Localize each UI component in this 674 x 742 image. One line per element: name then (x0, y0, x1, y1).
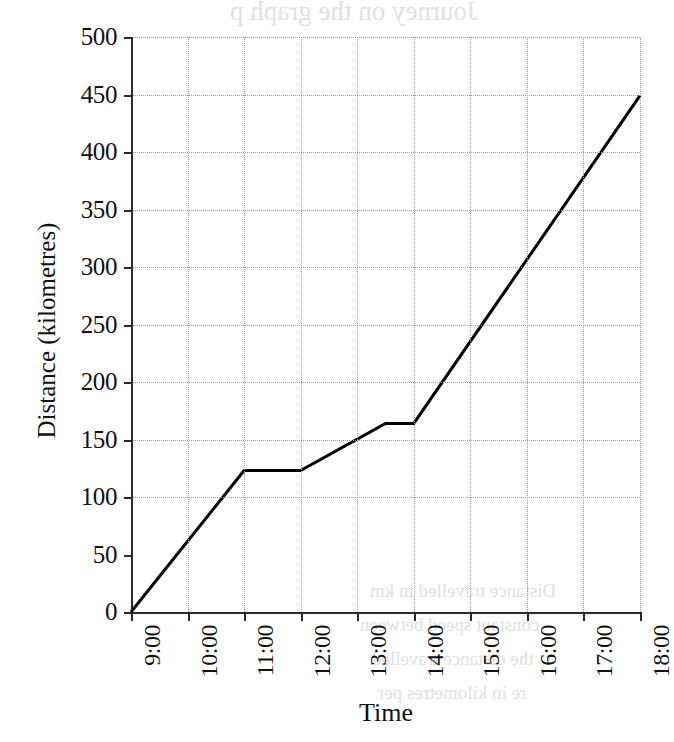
x-axis-tick (527, 612, 529, 621)
x-axis-tick-label: 11:00 (253, 625, 277, 676)
bleed-through-artifact-top: Journey on the graph p (230, 0, 477, 27)
x-axis-tick (188, 612, 190, 621)
x-axis-tick (640, 612, 642, 621)
x-axis-tick (414, 612, 416, 621)
x-axis-tick (470, 612, 472, 621)
x-axis-tick (301, 612, 303, 621)
y-axis-tick (124, 497, 133, 499)
y-axis-tick-label: 150 (57, 427, 117, 452)
y-axis-tick-label: 0 (57, 599, 117, 624)
bleed-through-artifact-3: the distance travelled (372, 648, 533, 670)
x-axis-tick-label: 12:00 (310, 625, 334, 677)
y-axis-tick-label: 300 (57, 254, 117, 279)
y-axis-tick (124, 440, 133, 442)
y-axis-tick-label: 350 (57, 197, 117, 222)
x-axis-tick (244, 612, 246, 621)
y-axis-tick (124, 325, 133, 327)
y-axis-tick (124, 382, 133, 384)
x-axis-tick-label: 18:00 (649, 625, 673, 677)
y-axis-tick (124, 267, 133, 269)
gridline-vertical (640, 37, 641, 612)
x-axis-tick (131, 612, 133, 621)
y-axis-tick-label: 500 (57, 24, 117, 49)
y-axis-tick (124, 37, 133, 39)
y-axis-tick-label: 250 (57, 312, 117, 337)
x-axis-tick (357, 612, 359, 621)
plot-area (131, 37, 640, 612)
x-axis-tick-label: 10:00 (197, 625, 221, 677)
y-axis-tick (124, 152, 133, 154)
x-axis-tick-label: 9:00 (140, 625, 164, 666)
y-axis-tick (124, 95, 133, 97)
x-axis-tick-label: 15:00 (479, 625, 503, 677)
x-axis-tick-label: 14:00 (423, 625, 447, 677)
y-axis-tick-label: 450 (57, 82, 117, 107)
x-axis-line (131, 612, 641, 614)
x-axis-tick-label: 17:00 (592, 625, 616, 677)
y-axis-tick-labels: 050100150200250300350400450500 (55, 0, 117, 742)
x-axis-tick-label: 13:00 (366, 625, 390, 677)
y-axis-tick-label: 200 (57, 369, 117, 394)
y-axis-tick (124, 555, 133, 557)
x-axis-tick (583, 612, 585, 621)
y-axis-tick-label: 100 (57, 484, 117, 509)
y-axis-tick-label: 50 (57, 542, 117, 567)
x-axis-title: Time (131, 700, 641, 726)
y-axis-tick-label: 400 (57, 139, 117, 164)
y-axis-tick (124, 210, 133, 212)
series-line-journey (131, 37, 640, 612)
x-axis-tick-label: 16:00 (536, 625, 560, 677)
